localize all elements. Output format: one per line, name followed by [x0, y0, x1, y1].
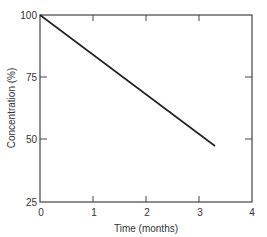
- x-ticks-bottom: [93, 196, 199, 202]
- x-ticks-top: [93, 15, 199, 21]
- x-axis-label: Time (months): [114, 223, 178, 234]
- y-ticks-right: [245, 77, 252, 139]
- y-tick-75: 75: [26, 72, 38, 83]
- plot-frame: [40, 15, 252, 202]
- x-tick-1: 1: [91, 207, 97, 218]
- chart: 100 75 50 25 0 1 2 3 4 Time (months) Con…: [0, 0, 267, 237]
- y-tick-25: 25: [26, 197, 38, 208]
- y-axis-label: Concentration (%): [6, 68, 17, 149]
- concentration-line: [40, 15, 215, 146]
- x-tick-3: 3: [197, 207, 203, 218]
- x-tick-4: 4: [249, 207, 255, 218]
- y-tick-50: 50: [26, 134, 38, 145]
- x-tick-0: 0: [38, 207, 44, 218]
- x-tick-2: 2: [144, 207, 150, 218]
- y-tick-100: 100: [20, 10, 37, 21]
- y-ticks-left: [40, 77, 47, 139]
